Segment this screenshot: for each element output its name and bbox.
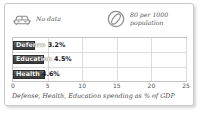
bar-chart-plot: Defense 3.2%Education 4.5%Health 4.6% bbox=[12, 37, 187, 82]
bar-row[interactable]: Defense 3.2% bbox=[13, 38, 186, 53]
chart-caption: Defense, Health, Education spending as %… bbox=[12, 92, 190, 100]
bar-row[interactable]: Education 4.5% bbox=[13, 52, 186, 67]
x-tick-label: 5 bbox=[46, 82, 50, 89]
x-axis: 0510152025 bbox=[12, 82, 187, 92]
gridline bbox=[186, 38, 187, 81]
infographic-card: No data 80 per 1000 population Defense 3… bbox=[4, 3, 194, 106]
stat-rate: 80 per 1000 population bbox=[106, 9, 168, 29]
bar-label-health: Health 4.6% bbox=[16, 70, 60, 79]
bar-label-defense: Defense 3.2% bbox=[16, 41, 65, 50]
x-tick-label: 15 bbox=[113, 82, 121, 89]
stat-rate-label: 80 per 1000 population bbox=[130, 11, 168, 26]
bar-label-education: Education 4.5% bbox=[16, 55, 72, 64]
stat-vehicles: No data bbox=[12, 9, 61, 29]
x-tick-label: 10 bbox=[78, 82, 86, 89]
x-tick-label: 0 bbox=[11, 82, 15, 89]
stat-vehicles-label: No data bbox=[36, 15, 61, 23]
tire-icon bbox=[106, 9, 126, 29]
x-tick-label: 25 bbox=[182, 82, 190, 89]
bar-row[interactable]: Health 4.6% bbox=[13, 67, 186, 82]
car-front-icon bbox=[12, 9, 32, 29]
header-stats: No data 80 per 1000 population bbox=[5, 4, 193, 35]
x-tick-label: 20 bbox=[148, 82, 156, 89]
